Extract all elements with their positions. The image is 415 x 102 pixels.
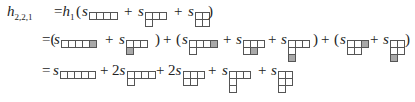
diagram-box [88, 71, 96, 79]
diagram-box [190, 78, 198, 86]
math-symbol: ) [313, 32, 318, 47]
plus-sign: + [163, 32, 171, 47]
schur-term: s [281, 32, 287, 47]
diagram-box [145, 19, 153, 27]
plus-sign: + [370, 32, 378, 47]
math-symbol: = [42, 63, 50, 78]
schur-term: s [53, 63, 59, 78]
math-symbol: ) [155, 32, 160, 47]
diagram-box [127, 78, 135, 86]
diagram-box [110, 12, 118, 20]
shaded-box [250, 47, 258, 55]
math-symbol: ( [334, 32, 339, 47]
math-symbol: ( [76, 4, 81, 19]
schur-term: 2s [112, 63, 125, 78]
diagram-box [229, 85, 237, 93]
schur-term: s [188, 4, 194, 19]
shaded-box [210, 40, 218, 48]
diagram-box [397, 47, 405, 55]
plus-sign: + [105, 32, 113, 47]
diagram-box [278, 85, 286, 93]
diagram-box [354, 47, 362, 55]
diagram-box [257, 40, 265, 48]
shaded-box [126, 47, 134, 55]
diagram-box [189, 47, 197, 55]
shaded-box [390, 54, 398, 62]
math-symbol: ( [176, 32, 181, 47]
diagram-box [148, 71, 156, 79]
plus-sign: + [174, 4, 182, 19]
schur-term: s [383, 32, 389, 47]
plus-sign: + [208, 63, 216, 78]
schur-term: s [182, 32, 188, 47]
diagram-box [302, 40, 310, 48]
lhs-symbol: h2,2,1 [7, 4, 33, 21]
math-symbol: =h1 [54, 4, 74, 21]
diagram-box [140, 40, 148, 48]
schur-term: s [222, 63, 228, 78]
schur-term: s [236, 32, 242, 47]
diagram-box [243, 71, 251, 79]
plus-sign: + [124, 4, 132, 19]
plus-sign: + [223, 32, 231, 47]
schur-term: s [82, 4, 88, 19]
diagram-box [285, 78, 293, 86]
diagram-box [197, 71, 205, 79]
math-symbol: ) [405, 32, 410, 47]
plus-sign: + [321, 32, 329, 47]
plus-sign: + [156, 63, 164, 78]
plus-sign: + [100, 63, 108, 78]
schur-term: s [271, 63, 277, 78]
plus-sign: + [268, 32, 276, 47]
plus-sign: + [258, 63, 266, 78]
diagram-box [159, 12, 167, 20]
schur-term: 2s [168, 63, 181, 78]
shaded-box [361, 40, 369, 48]
schur-term: s [340, 32, 346, 47]
schur-term: s [119, 32, 125, 47]
schur-term: s [54, 32, 60, 47]
shaded-box [89, 40, 97, 48]
math-symbol: ) [208, 4, 213, 19]
diagram-box [202, 19, 210, 27]
schur-term: s [138, 4, 144, 19]
shaded-box [288, 54, 296, 62]
